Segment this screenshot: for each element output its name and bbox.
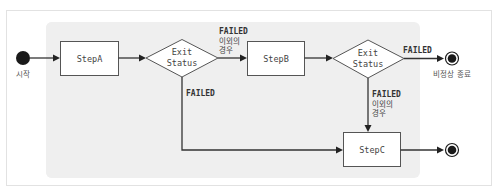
edge-d1-stepc-label: FAILED <box>186 89 215 98</box>
start-node <box>16 51 30 65</box>
step-c-node: StepC <box>344 133 401 167</box>
decision-2-label-line1: Exit <box>358 48 378 58</box>
step-a-label: StepA <box>77 54 103 64</box>
edge-d2-stepc-label-line2: 이외의 <box>372 99 393 109</box>
edge-d1-stepb-label-line3: 경우 <box>219 45 233 55</box>
start-label: 시작 <box>16 69 30 79</box>
decision-1-label-line1: Exit <box>172 47 192 57</box>
normal-end-inner-dot <box>448 146 457 155</box>
abnormal-end-label: 비정상 종료 <box>433 69 470 79</box>
step-c-label: StepC <box>359 145 385 155</box>
edge-d1-stepb-label-line2: 이외의 <box>219 36 240 46</box>
edge-d2-stepc-label-line1: FAILED <box>372 90 401 99</box>
step-b-label: StepB <box>263 54 289 64</box>
normal-end-node <box>446 144 459 157</box>
edge-d1-stepb-label-line1: FAILED <box>219 27 248 36</box>
edge-d2-end-label: FAILED <box>403 46 432 55</box>
decision-1-label-line2: Status <box>167 58 198 68</box>
abnormal-end-node <box>446 52 459 65</box>
decision-2-label-line2: Status <box>353 59 384 69</box>
step-b-node: StepB <box>248 42 305 76</box>
step-a-node: StepA <box>61 42 119 76</box>
abnormal-end-inner-dot <box>448 54 457 63</box>
edge-d2-stepc-label-line3: 경우 <box>372 108 386 118</box>
flow-diagram: 시작 StepA Exit Status FAILED 이외의 경우 StepB… <box>0 0 499 195</box>
